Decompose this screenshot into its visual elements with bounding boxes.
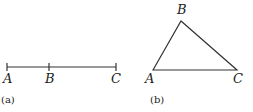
label-vertex-c: C [233,71,243,86]
figure-b-triangle: B A C (b) [144,2,243,105]
label-vertex-a: A [144,71,154,86]
figure: A B C (a) B A C (b) [0,0,253,112]
figure-a-line-segment: A B C (a) [1,63,121,105]
label-c: C [111,71,121,86]
label-b: B [44,71,55,86]
caption-b: (b) [150,94,164,105]
caption-a: (a) [1,94,15,105]
label-vertex-b: B [176,2,187,17]
label-a: A [2,71,12,86]
triangle-abc [153,21,237,70]
